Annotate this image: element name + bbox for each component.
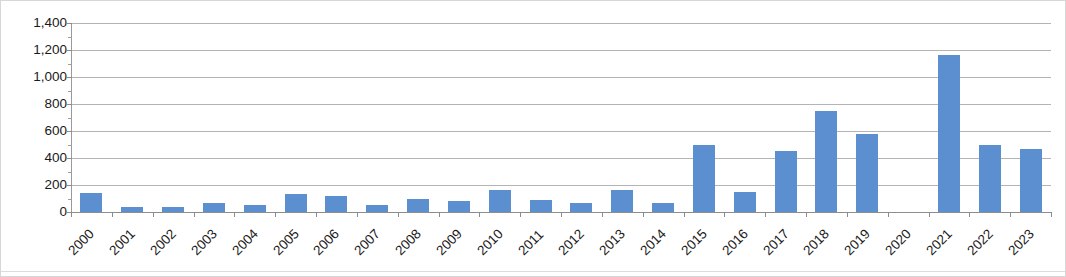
bar-slot xyxy=(602,23,643,212)
bar-slot xyxy=(684,23,725,212)
y-axis-tick xyxy=(67,23,72,24)
y-axis-tick-label: 600 xyxy=(5,124,67,138)
y-axis-tick xyxy=(67,50,72,51)
bar xyxy=(775,151,797,212)
y-axis-tick xyxy=(67,131,72,132)
x-axis-tick-label: 2021 xyxy=(924,227,955,258)
bar xyxy=(203,203,225,212)
x-axis-tick-label: 2020 xyxy=(883,227,914,258)
x-axis-tick-label: 2022 xyxy=(965,227,996,258)
bar xyxy=(570,203,592,212)
y-axis-minor-tick xyxy=(68,64,72,65)
x-axis-tick-label: 2019 xyxy=(842,227,873,258)
bar xyxy=(734,192,756,212)
x-axis-tick-label: 2008 xyxy=(393,227,424,258)
bar-slot xyxy=(643,23,684,212)
bar xyxy=(489,190,511,212)
x-axis-tick-label: 2007 xyxy=(352,227,383,258)
x-axis-tick-label: 2005 xyxy=(270,227,301,258)
x-axis-tick-label: 2014 xyxy=(638,227,669,258)
y-axis-tick-label: 200 xyxy=(5,178,67,192)
x-axis-tick-label: 2012 xyxy=(556,227,587,258)
x-axis-tick-label: 2001 xyxy=(107,227,138,258)
y-axis-tick xyxy=(67,77,72,78)
bar xyxy=(652,203,674,212)
bar-chart: 02004006008001,0001,2001,400 20002001200… xyxy=(0,0,1066,277)
x-axis-tick-label: 2010 xyxy=(475,227,506,258)
bar-slot xyxy=(234,23,275,212)
y-axis-labels: 02004006008001,0001,2001,400 xyxy=(1,1,67,277)
bar-slot xyxy=(520,23,561,212)
bar-slot xyxy=(847,23,888,212)
y-axis-tick xyxy=(67,158,72,159)
x-axis-tick-label: 2018 xyxy=(801,227,832,258)
plot-area xyxy=(71,23,1051,212)
x-axis-tick-label: 2003 xyxy=(189,227,220,258)
bar xyxy=(407,199,429,213)
bar xyxy=(938,55,960,212)
y-axis-minor-tick xyxy=(68,145,72,146)
x-axis-tick-label: 2016 xyxy=(720,227,751,258)
bar xyxy=(856,134,878,212)
y-axis-tick-label: 1,400 xyxy=(5,16,67,30)
bar-slot xyxy=(929,23,970,212)
y-axis-tick xyxy=(67,185,72,186)
x-axis-tick-label: 2011 xyxy=(515,228,545,258)
bar-slot xyxy=(439,23,480,212)
bar xyxy=(325,196,347,212)
y-axis-tick-label: 1,200 xyxy=(5,43,67,57)
x-axis-tick-label: 2000 xyxy=(66,227,97,258)
bar-slot xyxy=(153,23,194,212)
x-axis-tick-label: 2013 xyxy=(597,227,628,258)
y-axis-tick xyxy=(67,212,72,213)
bar xyxy=(530,200,552,212)
bar-slot xyxy=(806,23,847,212)
y-axis-tick-label: 1,000 xyxy=(5,70,67,84)
bar-slot xyxy=(724,23,765,212)
bar-slot xyxy=(194,23,235,212)
x-axis-tick-label: 2023 xyxy=(1005,227,1036,258)
bar xyxy=(244,205,266,212)
bar xyxy=(80,193,102,212)
y-axis-minor-tick xyxy=(68,118,72,119)
x-axis-tick-label: 2002 xyxy=(148,227,179,258)
bar-slot xyxy=(71,23,112,212)
bar xyxy=(979,145,1001,213)
y-axis-tick-label: 400 xyxy=(5,151,67,165)
x-axis-tick-label: 2015 xyxy=(679,227,710,258)
bar-slot xyxy=(888,23,929,212)
y-axis-tick-label: 800 xyxy=(5,97,67,111)
bar-slot xyxy=(275,23,316,212)
y-axis-minor-tick xyxy=(68,199,72,200)
bar-slot xyxy=(357,23,398,212)
bar xyxy=(1020,149,1042,212)
x-axis-labels: 2000200120022003200420052006200720082009… xyxy=(71,217,1061,275)
bar-slot xyxy=(969,23,1010,212)
bar-slot xyxy=(1010,23,1051,212)
bar xyxy=(366,205,388,212)
x-axis-tick-label: 2009 xyxy=(434,227,465,258)
bar xyxy=(611,190,633,212)
bar xyxy=(285,194,307,212)
bar-slot xyxy=(316,23,357,212)
bar-slot xyxy=(398,23,439,212)
bar-slot xyxy=(112,23,153,212)
y-axis-tick-label: 0 xyxy=(5,205,67,219)
bar-slot xyxy=(479,23,520,212)
y-axis-minor-tick xyxy=(68,91,72,92)
x-axis-tick-label: 2006 xyxy=(311,227,342,258)
bar xyxy=(448,201,470,212)
bar xyxy=(693,145,715,213)
x-axis-tick-label: 2017 xyxy=(760,227,791,258)
bottom-rule xyxy=(1,271,1065,272)
bar xyxy=(815,111,837,212)
y-axis-tick xyxy=(67,104,72,105)
x-axis-tick-label: 2004 xyxy=(230,227,261,258)
y-axis-minor-tick xyxy=(68,172,72,173)
y-axis-minor-tick xyxy=(68,37,72,38)
bar-slot xyxy=(765,23,806,212)
bar-slot xyxy=(561,23,602,212)
